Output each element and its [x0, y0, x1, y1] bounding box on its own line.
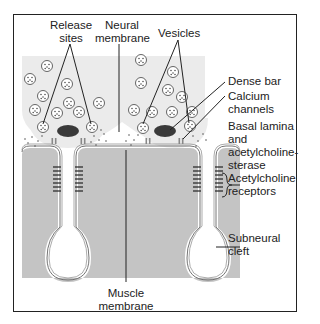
- label-line: Subneural: [228, 232, 280, 245]
- label-release-sites: Release sites: [49, 19, 93, 45]
- label-line: sterase: [228, 159, 298, 172]
- label-line: membrane: [98, 300, 154, 313]
- label-line: cleft: [228, 245, 280, 258]
- label-line: receptors: [228, 185, 296, 198]
- label-line: Release: [49, 19, 93, 32]
- label-line: membrane: [95, 32, 149, 45]
- label-line: acetylcholine-: [228, 146, 298, 159]
- label-dense-bar: Dense bar: [228, 75, 281, 88]
- label-calcium-channels: Calcium channels: [228, 90, 274, 116]
- label-vesicles: Vesicles: [158, 27, 200, 40]
- label-line: Basal lamina: [228, 120, 298, 133]
- dense-bar-right: [154, 125, 176, 137]
- muscle-fiber: [22, 144, 240, 282]
- label-neural-membrane: Neural membrane: [95, 19, 149, 45]
- dense-bar-left: [57, 125, 79, 137]
- label-line: Acetylcholine: [228, 172, 296, 185]
- label-subneural-cleft: Subneural cleft: [228, 232, 280, 258]
- label-basal-lamina: Basal lamina and acetylcholine- sterase: [228, 120, 298, 172]
- label-line: Neural: [95, 19, 149, 32]
- label-line: sites: [49, 32, 93, 45]
- label-line: channels: [228, 103, 274, 116]
- label-line: and: [228, 133, 298, 146]
- label-acetylcholine-receptors: Acetylcholine receptors: [228, 172, 296, 198]
- label-muscle-membrane: Muscle membrane: [98, 287, 154, 313]
- label-line: Muscle: [98, 287, 154, 300]
- label-line: Calcium: [228, 90, 274, 103]
